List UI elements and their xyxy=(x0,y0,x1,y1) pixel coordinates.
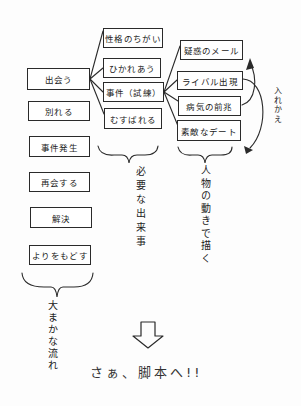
brace-actions xyxy=(178,147,232,163)
events-caption: 必要な出来事 xyxy=(134,166,144,250)
swap-arrow-down-head xyxy=(244,146,253,154)
action-illness-sign: 病気の前兆 xyxy=(178,96,241,116)
action-label: 病気の前兆 xyxy=(186,100,233,112)
action-label: 疑惑のメール xyxy=(184,44,240,56)
swap-note: 入れかえ xyxy=(272,86,280,124)
flow-step-incident: 事件発生 xyxy=(29,136,90,157)
event-label: 性格のちがい xyxy=(105,32,161,44)
flow-caption: 大まかな流れ xyxy=(46,300,56,372)
event-incident-trial: 事件（試練） xyxy=(103,82,164,102)
flow-step-meet: 出会う xyxy=(27,68,90,90)
event-attraction: ひかれあう xyxy=(103,58,161,78)
action-lovely-date: 素敵なデート xyxy=(177,120,241,141)
brace-flow xyxy=(22,273,93,297)
flow-step-label: 別れる xyxy=(45,105,73,117)
event-label: むすばれる xyxy=(110,113,157,125)
flow-step-label: 事件発生 xyxy=(41,141,78,153)
conclusion-text: さぁ、脚本へ!! xyxy=(90,362,230,381)
flow-step-label: 出会う xyxy=(45,73,73,85)
flow-step-label: 解決 xyxy=(52,212,71,224)
flow-step-separate: 別れる xyxy=(28,101,90,121)
brace-events xyxy=(98,146,158,163)
swap-arrow-up-head xyxy=(246,58,254,70)
flow-step-resolve: 解決 xyxy=(30,207,92,228)
flow-step-reunite: 再会する xyxy=(29,172,90,192)
flow-step-label: 再会する xyxy=(41,176,78,188)
fan-lines-flow-to-events xyxy=(90,31,104,114)
action-label: ライバル出現 xyxy=(182,75,238,87)
event-label: 事件（試練） xyxy=(106,86,162,98)
flow-step-label: よりをもどす xyxy=(32,249,88,261)
action-label: 素敵なデート xyxy=(181,125,237,137)
down-arrow-icon xyxy=(133,322,163,348)
action-suspicious-email: 疑惑のメール xyxy=(180,40,243,60)
flow-step-reconcile: よりをもどす xyxy=(29,245,91,265)
screenplay-plot-diagram: 出会う 別れる 事件発生 再会する 解決 よりをもどす 性格のちがい ひかれあう… xyxy=(0,0,301,406)
event-union: むすばれる xyxy=(104,108,162,129)
event-personality-difference: 性格のちがい xyxy=(103,28,163,48)
actions-caption: 人物の動きで描く xyxy=(199,165,209,265)
swap-arrow-down xyxy=(243,79,263,148)
event-label: ひかれあう xyxy=(109,62,156,74)
action-rival-appears: ライバル出現 xyxy=(177,71,243,90)
